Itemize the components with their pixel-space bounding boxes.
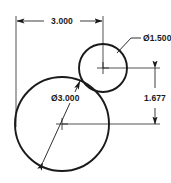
dimension-label-small-diameter: Ø1.500 — [143, 33, 171, 43]
geometry-group — [15, 44, 127, 171]
extension-lines-group — [16, 16, 160, 127]
dimension-diameter-3000: Ø3.000 — [43, 81, 88, 162]
drawing-svg: 3.000 Ø1.500 Ø3.000 1.677 — [0, 0, 171, 183]
engineering-drawing-canvas: 3.000 Ø1.500 Ø3.000 1.677 — [0, 0, 171, 183]
dimension-vertical-1677: 1.677 — [144, 68, 166, 124]
dimension-label-large-diameter: Ø3.000 — [51, 93, 80, 103]
dimension-horizontal-3000: 3.000 — [17, 16, 102, 26]
dimension-label-vertical: 1.677 — [144, 93, 166, 103]
dimension-diameter-1500: Ø1.500 — [117, 33, 171, 53]
dimension-label-horizontal: 3.000 — [51, 16, 73, 26]
